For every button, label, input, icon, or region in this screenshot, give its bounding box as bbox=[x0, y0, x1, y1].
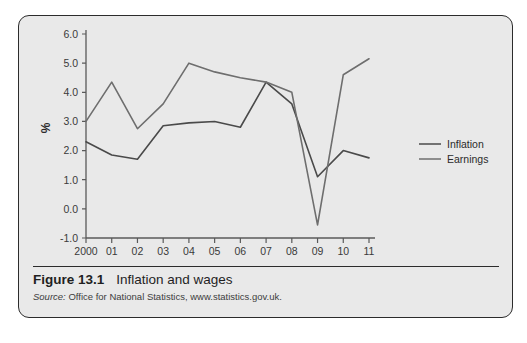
figure-root: -1.00.01.02.03.04.05.06.0200001020304050… bbox=[0, 0, 527, 343]
legend-label-earnings: Earnings bbox=[447, 153, 488, 165]
x-axis-tick-label: 01 bbox=[106, 245, 118, 257]
line-chart: -1.00.01.02.03.04.05.06.0200001020304050… bbox=[19, 16, 513, 264]
x-axis-tick-label: 10 bbox=[337, 245, 349, 257]
figure-title: Inflation and wages bbox=[116, 272, 232, 287]
y-axis-tick-label: 3.0 bbox=[63, 115, 78, 127]
legend-label-inflation: Inflation bbox=[447, 138, 484, 150]
y-axis-tick-label: 6.0 bbox=[63, 28, 78, 40]
x-axis-tick-label: 02 bbox=[132, 245, 144, 257]
x-axis-tick-label: 03 bbox=[157, 245, 169, 257]
x-axis-tick-label: 08 bbox=[286, 245, 298, 257]
caption-divider bbox=[33, 266, 499, 267]
x-axis-tick-label: 07 bbox=[260, 245, 272, 257]
y-axis-tick-label: -1.0 bbox=[60, 232, 78, 244]
series-line-inflation bbox=[86, 82, 369, 177]
y-axis-tick-label: 1.0 bbox=[63, 174, 78, 186]
source-label: Source: bbox=[33, 291, 66, 302]
y-axis-tick-label: 0.0 bbox=[63, 203, 78, 215]
caption-block: Figure 13.1Inflation and wages Source: O… bbox=[33, 272, 499, 302]
x-axis-tick-label: 06 bbox=[235, 245, 247, 257]
y-axis-tick-label: 2.0 bbox=[63, 144, 78, 156]
figure-source: Source: Office for National Statistics, … bbox=[33, 291, 499, 302]
x-axis-tick-label: 11 bbox=[364, 245, 375, 257]
y-axis-title: % bbox=[39, 122, 53, 133]
y-axis-tick-label: 5.0 bbox=[63, 57, 78, 69]
series-line-earnings bbox=[86, 59, 369, 225]
y-axis-tick-label: 4.0 bbox=[63, 86, 78, 98]
x-axis-tick-label: 2000 bbox=[74, 245, 98, 257]
figure-panel: -1.00.01.02.03.04.05.06.0200001020304050… bbox=[18, 15, 513, 318]
x-axis-tick-label: 05 bbox=[209, 245, 221, 257]
source-text: Office for National Statistics, www.stat… bbox=[68, 291, 281, 302]
x-axis-tick-label: 09 bbox=[312, 245, 324, 257]
figure-number: Figure 13.1 bbox=[33, 272, 104, 287]
caption-title: Figure 13.1Inflation and wages bbox=[33, 272, 499, 287]
x-axis-tick-label: 04 bbox=[183, 245, 195, 257]
chart-plot-area: -1.00.01.02.03.04.05.06.0200001020304050… bbox=[19, 16, 513, 264]
